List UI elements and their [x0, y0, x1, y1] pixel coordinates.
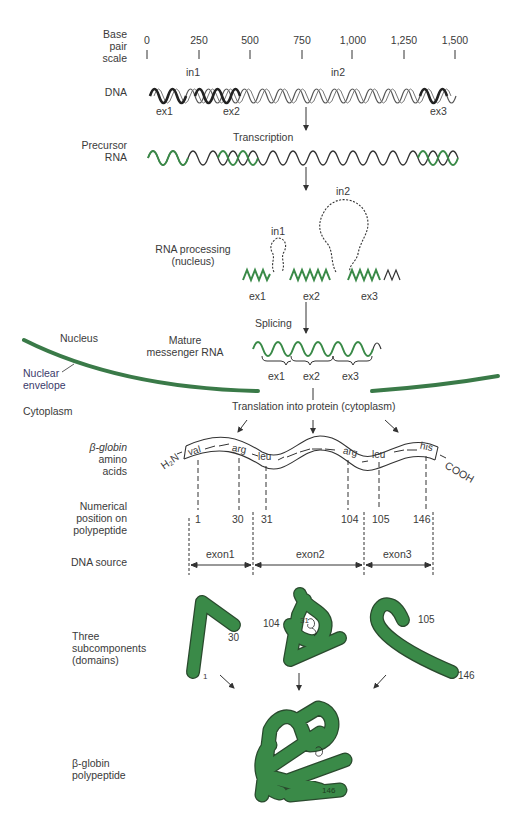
base-pair-scale-label: Basepairscale	[80, 28, 127, 64]
exon-boundary-lines	[189, 512, 433, 575]
beta-globin-polypeptide-label: β-globinpolypeptide	[72, 757, 126, 781]
dna-exon-ex1: ex1	[156, 105, 173, 117]
cytoplasm-label: Cytoplasm	[23, 405, 73, 417]
dna-exon-ex2: ex2	[223, 105, 240, 117]
residue-position-lines	[198, 456, 426, 510]
folded-polypeptide-shape	[262, 708, 345, 795]
scale-tick-1250: 1,250	[384, 34, 424, 46]
rna-processing-strand	[243, 200, 400, 280]
mature-exon-ex3: ex3	[342, 370, 359, 382]
domain-2-shape	[290, 594, 340, 660]
position-31: 31	[261, 513, 273, 525]
residue-leu-105: leu	[372, 449, 385, 461]
nuclear-envelope-label: Nuclearenvelope	[23, 367, 66, 391]
mature-mrna-strand	[253, 342, 381, 365]
domain-label-1: 1	[203, 671, 207, 683]
scale-tick-250: 250	[184, 34, 214, 46]
position-1: 1	[195, 513, 201, 525]
processing-intron-in1: in1	[271, 225, 285, 237]
source-exon3: exon3	[383, 548, 412, 560]
domain-label-30: 30	[228, 632, 239, 644]
amino-acid-ribbon	[177, 436, 446, 470]
base-pair-scale-axis	[147, 50, 455, 59]
dna-label: DNA	[80, 86, 127, 98]
precursor-rna-label: PrecursorRNA	[60, 139, 127, 163]
precursor-rna-strand	[148, 151, 458, 165]
translation-arrows	[238, 420, 398, 433]
residue-arg-30: arg	[231, 442, 247, 456]
scale-tick-750: 750	[287, 34, 317, 46]
dna-exon-ex3: ex3	[430, 105, 447, 117]
transcription-label: Transcription	[233, 131, 293, 143]
scale-tick-1500: 1,500	[435, 34, 475, 46]
source-exon2: exon2	[296, 548, 325, 560]
residue-his: his	[419, 440, 434, 454]
beta-globin-amino-acids-label: β-globinaminoacids	[60, 441, 127, 477]
processing-exon-ex2: ex2	[303, 290, 320, 302]
rna-processing-label: RNA processing(nucleus)	[148, 243, 238, 267]
mature-exon-ex2: ex2	[303, 370, 320, 382]
domain-label-104: 104	[263, 618, 280, 630]
nuclear-envelope-right	[372, 376, 498, 391]
dna-double-helix	[150, 89, 456, 103]
numerical-position-label: Numericalposition onpolypeptide	[50, 500, 127, 536]
translation-label: Translation into protein (cytoplasm)	[232, 400, 396, 412]
three-subcomponents-label: Threesubcomponents(domains)	[72, 630, 146, 666]
position-146: 146	[413, 513, 431, 525]
intron-label-in1: in1	[186, 66, 200, 78]
processing-intron-in2: in2	[336, 185, 350, 197]
domain-label-146: 146	[458, 670, 475, 682]
source-exon1: exon1	[206, 548, 235, 560]
nucleus-label: Nucleus	[60, 332, 98, 344]
position-30: 30	[232, 513, 244, 525]
assembly-arrows	[220, 673, 386, 690]
intron-label-in2: in2	[331, 66, 345, 78]
processing-exon-ex1: ex1	[249, 290, 266, 302]
scale-tick-500: 500	[235, 34, 265, 46]
position-104: 104	[341, 513, 359, 525]
domain-label-31: 31	[300, 615, 309, 627]
position-105: 105	[372, 513, 390, 525]
mature-mrna-label: Maturemessenger RNA	[145, 334, 225, 358]
exon-span-arrows	[191, 563, 431, 568]
mature-exon-ex1: ex1	[268, 370, 285, 382]
splicing-label: Splicing	[255, 317, 292, 329]
polypeptide-label-146: 146	[322, 785, 335, 797]
domain-label-105: 105	[418, 614, 435, 626]
residue-leu-31: leu	[258, 451, 271, 463]
processing-exon-ex3: ex3	[361, 290, 378, 302]
scale-tick-0: 0	[137, 34, 157, 46]
scale-tick-1000: 1,000	[333, 34, 373, 46]
dna-source-label: DNA source	[50, 556, 127, 568]
